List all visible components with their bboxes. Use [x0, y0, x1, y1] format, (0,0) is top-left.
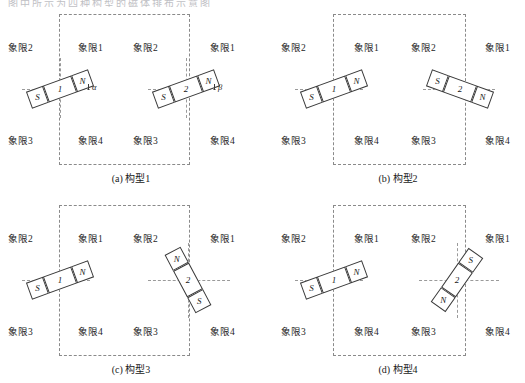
panel-c-right-quadrant-3: 象限3 [133, 324, 158, 338]
panel-b-left-magnet-id-label: 1 [332, 84, 337, 94]
panel-a-beta-label: β [218, 82, 222, 92]
panel-a-right-quadrant-3: 象限3 [133, 133, 158, 147]
panel-c-right-quadrant-1: 象限1 [210, 231, 235, 245]
panel-a-left-magnet-id-label: 1 [58, 84, 63, 94]
panel-a-right-quadrant-4: 象限4 [210, 133, 235, 147]
panel-a-right-quadrant-2: 象限2 [133, 40, 158, 54]
panel-b-left-quadrant-2: 象限2 [281, 40, 306, 54]
panel-d-right-quadrant-3: 象限3 [411, 324, 436, 338]
panel-a-right-magnet-north-label: N [206, 76, 212, 86]
panel-d-right-magnet-south-label: S [469, 255, 474, 265]
panel-c-left-magnet-north-label: N [80, 267, 86, 277]
panel-d-right-quadrant-2: 象限2 [411, 231, 436, 245]
panel-a-caption: (a) 构型1 [0, 170, 262, 185]
panel-d-right-magnet-id-label: 2 [455, 275, 460, 285]
panel-b-caption: (b) 构型2 [267, 170, 525, 185]
panel-b-right-quadrant-2: 象限2 [411, 40, 436, 54]
panel-b-right-magnet-north-label: N [480, 92, 486, 102]
panel-a-left-quadrant-2: 象限2 [8, 40, 33, 54]
panel-b-right-quadrant-4: 象限4 [485, 133, 510, 147]
panel-b-right-quadrant-3: 象限3 [411, 133, 436, 147]
panel-d-left-magnet-id-label: 1 [332, 275, 337, 285]
panel-d: 象限2 象限1 象限3 象限4 象限2 象限1 象限3 象限4 S 1 N N … [261, 191, 523, 383]
panel-c-left-quadrant-2: 象限2 [8, 231, 33, 245]
panel-a-left-quadrant-4: 象限4 [78, 133, 103, 147]
panel-b-left-magnet-north-label: N [354, 76, 360, 86]
panel-a-right-quadrant-1: 象限1 [210, 40, 235, 54]
panel-c-left-quadrant-1: 象限1 [78, 231, 103, 245]
panel-c-right-magnet-id-label: 2 [186, 275, 191, 285]
panel-a: 象限2 象限1 象限3 象限4 象限2 象限1 象限3 象限4 S 1 N α … [0, 0, 262, 192]
panel-c-left-quadrant-3: 象限3 [8, 324, 33, 338]
panel-d-right-magnet-north-label: N [440, 295, 446, 305]
panel-b-left-quadrant-3: 象限3 [281, 133, 306, 147]
panel-a-right-magnet-id-label: 2 [184, 84, 189, 94]
panel-a-right-magnet-south-label: S [161, 92, 166, 102]
panel-a-left-magnet-south-label: S [35, 92, 40, 102]
panel-d-left-magnet-north-label: N [354, 267, 360, 277]
panel-b-left-magnet-south-label: S [309, 92, 314, 102]
panel-c: 象限2 象限1 象限3 象限4 象限2 象限1 象限3 象限4 S 1 N N … [0, 191, 262, 383]
panel-a-left-quadrant-1: 象限1 [78, 40, 103, 54]
panel-d-right-quadrant-4: 象限4 [485, 324, 510, 338]
panel-b-right-magnet-south-label: S [435, 76, 440, 86]
panel-a-left-quadrant-3: 象限3 [8, 133, 33, 147]
panel-c-right-magnet-north-label: N [174, 254, 180, 264]
panel-d-left-quadrant-2: 象限2 [281, 231, 306, 245]
figure-grid: 象限2 象限1 象限3 象限4 象限2 象限1 象限3 象限4 S 1 N α … [0, 0, 525, 383]
panel-b-left-quadrant-4: 象限4 [354, 133, 379, 147]
panel-a-alpha-label: α [92, 82, 96, 92]
panel-c-right-magnet-south-label: S [197, 296, 202, 306]
panel-d-left-quadrant-4: 象限4 [354, 324, 379, 338]
panel-d-left-quadrant-3: 象限3 [281, 324, 306, 338]
panel-c-caption: (c) 构型3 [0, 361, 262, 376]
panel-b: 象限2 象限1 象限3 象限4 象限2 象限1 象限3 象限4 S 1 N S … [261, 0, 523, 192]
panel-c-left-quadrant-4: 象限4 [78, 324, 103, 338]
panel-c-left-magnet-id-label: 1 [58, 275, 63, 285]
panel-b-right-magnet-id-label: 2 [458, 84, 463, 94]
panel-d-left-magnet-south-label: S [309, 283, 314, 293]
panel-b-right-quadrant-1: 象限1 [485, 40, 510, 54]
panel-c-right-quadrant-4: 象限4 [210, 324, 235, 338]
panel-c-left-magnet-south-label: S [35, 283, 40, 293]
panel-b-left-quadrant-1: 象限1 [354, 40, 379, 54]
panel-d-caption: (d) 构型4 [267, 361, 525, 376]
panel-d-right-quadrant-1: 象限1 [485, 231, 510, 245]
panel-c-right-quadrant-2: 象限2 [133, 231, 158, 245]
panel-a-left-magnet-north-label: N [80, 76, 86, 86]
panel-d-left-quadrant-1: 象限1 [354, 231, 379, 245]
